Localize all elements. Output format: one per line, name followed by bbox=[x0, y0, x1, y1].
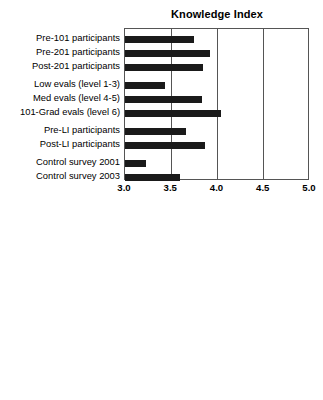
bar bbox=[125, 96, 202, 103]
category-label: Low evals (level 1-3) bbox=[34, 79, 120, 89]
chart-title-knowledge: Knowledge Index bbox=[124, 8, 310, 20]
bar bbox=[125, 128, 186, 135]
bar bbox=[125, 174, 180, 181]
category-label: Pre-201 participants bbox=[36, 47, 120, 57]
x-axis-knowledge: 3.03.54.04.55.0 bbox=[124, 182, 309, 196]
category-label: 101-Grad evals (level 6) bbox=[20, 107, 120, 117]
gridline-4.5 bbox=[263, 29, 264, 179]
gridline-4.0 bbox=[217, 29, 218, 179]
bar bbox=[125, 36, 194, 43]
bar bbox=[125, 82, 165, 89]
x-tick-label: 4.0 bbox=[210, 182, 223, 193]
category-label: Post-201 participants bbox=[32, 61, 120, 71]
x-tick-label: 3.0 bbox=[117, 182, 130, 193]
x-tick-label: 5.0 bbox=[302, 182, 315, 193]
category-label: Post-LI participants bbox=[40, 139, 120, 149]
category-label: Med evals (level 4-5) bbox=[33, 93, 120, 103]
x-tick-label: 3.5 bbox=[164, 182, 177, 193]
bar bbox=[125, 142, 205, 149]
bar bbox=[125, 160, 146, 167]
x-tick-label: 4.5 bbox=[256, 182, 269, 193]
category-label: Pre-101 participants bbox=[36, 33, 120, 43]
bar bbox=[125, 50, 210, 57]
plot-area-knowledge bbox=[124, 28, 309, 180]
category-label: Control survey 2001 bbox=[36, 157, 120, 167]
category-label: Pre-LI participants bbox=[44, 125, 120, 135]
chart-knowledge-index: Knowledge Index Pre-101 participantsPre-… bbox=[0, 0, 323, 200]
category-label: Control survey 2003 bbox=[36, 171, 120, 181]
category-labels-knowledge: Pre-101 participantsPre-201 participants… bbox=[0, 28, 122, 180]
bar bbox=[125, 64, 203, 71]
bar bbox=[125, 110, 221, 117]
chart-familiarity-index: Familiarity Index Pre-101 participantsPr… bbox=[0, 200, 323, 400]
